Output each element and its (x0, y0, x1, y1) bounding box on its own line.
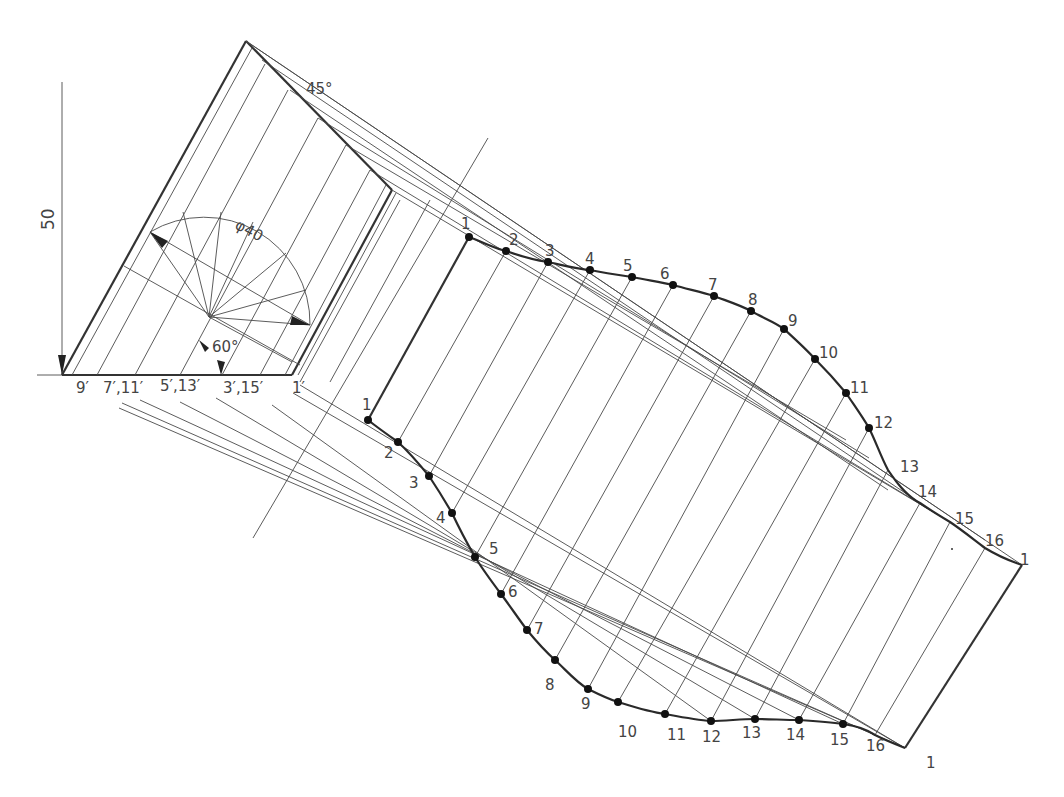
arrow-icon (290, 316, 310, 325)
point-label: 12 (702, 728, 721, 746)
lower-curve (368, 420, 905, 748)
height-dimension: 50 (38, 82, 66, 375)
point-label: 13 (742, 724, 761, 742)
point-label: 16 (866, 737, 885, 755)
point-label: 16 (985, 532, 1004, 550)
arrow-icon (217, 360, 225, 375)
upper-labels: 1 2 3 4 5 6 7 8 9 10 11 12 13 14 15 16 1 (461, 215, 1030, 569)
base-label: 7′,11′ (103, 379, 144, 397)
point-label: 7 (534, 620, 544, 638)
point-label: 9 (581, 695, 591, 713)
arrow-icon (199, 340, 209, 352)
point-label: 8 (545, 676, 555, 694)
point-label: 6 (508, 583, 518, 601)
development-drawing: 50 φ40 60° 9′ (0, 0, 1064, 797)
development-generators (300, 200, 985, 735)
marker-dot (951, 548, 953, 550)
base-label: 1′ (292, 379, 306, 397)
point-label: 8 (748, 291, 758, 309)
angle-top-label: 45° (306, 80, 333, 98)
point-label: 3 (409, 474, 419, 492)
point-label: 1 (362, 396, 372, 414)
seam-edge-left (368, 237, 469, 420)
point-label: 14 (918, 483, 937, 501)
point-label: 11 (850, 379, 869, 397)
point-label: 1 (461, 215, 471, 233)
point-label: 15 (830, 731, 849, 749)
projection-lines-lower (119, 385, 905, 748)
seam-edge-right (905, 565, 1022, 748)
dimension-height-label: 50 (38, 208, 58, 230)
axis-line (253, 138, 488, 538)
point-label: 2 (509, 231, 519, 249)
point-label: 13 (900, 458, 919, 476)
angle-bottom-label: 60° (212, 338, 239, 356)
point-label: 5 (623, 257, 633, 275)
point-label: 1 (926, 754, 936, 772)
point-label: 1 (1020, 551, 1030, 569)
point-label: 2 (384, 444, 394, 462)
point-label: 10 (819, 344, 838, 362)
point-label: 3 (545, 242, 555, 260)
semicircle-construction: φ40 60° (124, 212, 310, 375)
base-labels: 9′ 7′,11′ 5′,13′ 3′,15′ 1′ (76, 377, 306, 397)
base-label: 9′ (76, 379, 90, 397)
point-label: 7 (708, 276, 718, 294)
upper-points (465, 233, 873, 432)
point-label: 10 (618, 723, 637, 741)
point-label: 4 (436, 509, 446, 527)
base-label: 5′,13′ (160, 377, 201, 395)
projection-lines-upper (246, 41, 1022, 565)
point-label: 9 (788, 312, 798, 330)
point-label: 11 (667, 726, 686, 744)
base-label: 3′,15′ (223, 379, 264, 397)
point-label: 5 (489, 540, 499, 558)
upper-curve (469, 237, 1022, 565)
diameter-label: φ40 (232, 216, 266, 246)
point-label: 6 (660, 265, 670, 283)
point-label: 12 (874, 414, 893, 432)
point-label: 4 (585, 250, 595, 268)
point-label: 15 (955, 510, 974, 528)
point-label: 14 (786, 726, 805, 744)
